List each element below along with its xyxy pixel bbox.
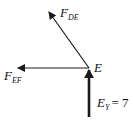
node-label-e: E	[93, 60, 102, 75]
free-body-diagram: FDE FEF E EY= 7	[0, 0, 133, 124]
label-fef: FEF	[3, 68, 22, 85]
label-ey: EY= 7	[96, 95, 129, 112]
label-fde: FDE	[59, 5, 79, 22]
